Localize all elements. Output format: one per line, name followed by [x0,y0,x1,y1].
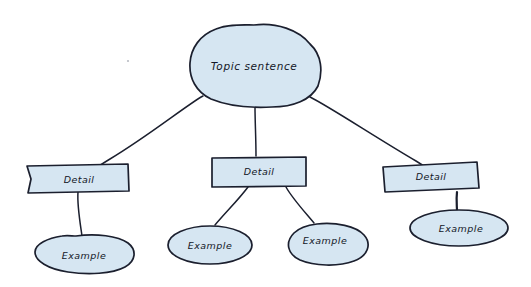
node-example-right-1[interactable]: Example [410,210,508,246]
example-middle-1-label: Example [188,240,232,251]
node-detail-right[interactable]: Detail [383,162,479,192]
node-example-middle-2[interactable]: Example [288,223,368,265]
detail-right-label: Detail [416,171,447,182]
diagram-canvas: Topic sentence Detail Example Detail Exa… [0,0,531,287]
detail-middle-label: Detail [244,166,275,177]
detail-left-label: Detail [64,174,95,185]
example-left-1-label: Example [62,250,106,261]
connector-detail-middle-to-example-2 [286,187,314,223]
topic-sentence-label: Topic sentence [211,60,298,72]
stray-pencil-mark [127,60,129,62]
connector-root-to-detail-left [88,96,203,174]
node-detail-left[interactable]: Detail [27,164,129,193]
node-detail-middle[interactable]: Detail [212,157,306,187]
example-middle-2-label: Example [303,235,347,246]
connector-root-to-detail-right [310,97,434,173]
example-right-1-label: Example [439,223,483,234]
hierarchy-diagram: Topic sentence Detail Example Detail Exa… [0,0,531,287]
node-topic-sentence[interactable]: Topic sentence [190,24,321,107]
node-example-middle-1[interactable]: Example [168,226,252,264]
connector-detail-left-to-example [78,192,82,236]
connector-detail-middle-to-example-1 [215,187,248,225]
node-example-left-1[interactable]: Example [35,235,134,274]
connector-root-to-detail-middle [255,107,256,156]
